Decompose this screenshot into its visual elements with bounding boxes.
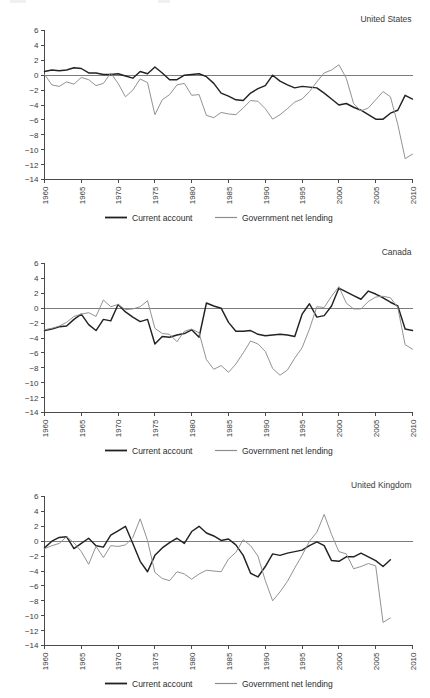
x-tick-label: 1995 [298, 652, 307, 670]
x-tick-label: 1990 [262, 652, 271, 670]
x-tick-label: 1965 [78, 652, 87, 670]
x-tick-label: 1980 [188, 652, 197, 670]
y-tick-label: −4 [29, 567, 39, 576]
x-tick-label: 1970 [114, 652, 123, 670]
x-tick-label: 1975 [151, 186, 160, 204]
x-tick-label: 1985 [225, 186, 234, 204]
x-tick-label: 2010 [409, 419, 418, 437]
series-line-government-net-lending [45, 514, 391, 622]
y-tick-label: 0 [34, 537, 39, 546]
panel-united-kingdom: United Kingdom6420−2−4−6−8−10−12−1419601… [0, 466, 430, 698]
y-tick-label: −6 [29, 349, 39, 358]
chart-united-states: United States6420−2−4−6−8−10−12−14196019… [0, 0, 430, 233]
panel-title: United States [360, 14, 411, 24]
y-tick-label: −8 [29, 131, 39, 140]
chart-united-kingdom: United Kingdom6420−2−4−6−8−10−12−1419601… [0, 466, 430, 698]
x-tick-label: 1980 [188, 419, 197, 437]
y-tick-label: 2 [34, 56, 39, 65]
y-tick-label: 0 [34, 71, 39, 80]
x-tick-label: 2000 [335, 419, 344, 437]
panel-title: Canada [382, 247, 412, 257]
x-tick-label: 1965 [78, 419, 87, 437]
y-tick-label: 4 [34, 41, 39, 50]
panel-united-states: United States6420−2−4−6−8−10−12−14196019… [0, 0, 430, 233]
x-tick-label: 2010 [409, 652, 418, 670]
y-tick-label: −12 [25, 627, 39, 636]
y-tick-label: 4 [34, 507, 39, 516]
x-tick-label: 1990 [262, 186, 271, 204]
y-tick-label: 4 [34, 274, 39, 283]
chart-canada: Canada6420−2−4−6−8−10−12−141960196519701… [0, 233, 430, 466]
legend-label-current-account: Current account [132, 213, 193, 223]
legend-label-government-net-lending: Government net lending [242, 446, 333, 456]
x-tick-label: 1985 [225, 419, 234, 437]
x-tick-label: 1970 [114, 186, 123, 204]
y-tick-label: −4 [29, 101, 39, 110]
x-tick-label: 1980 [188, 186, 197, 204]
y-tick-label: 6 [34, 259, 39, 268]
y-tick-label: −12 [25, 394, 39, 403]
figure-page: United States6420−2−4−6−8−10−12−14196019… [0, 0, 430, 698]
x-tick-label: 1960 [41, 419, 50, 437]
y-tick-label: −10 [25, 612, 39, 621]
y-tick-label: −4 [29, 334, 39, 343]
y-tick-label: −2 [29, 319, 39, 328]
x-tick-label: 2005 [372, 652, 381, 670]
y-tick-label: 6 [34, 492, 39, 501]
panel-canada: Canada6420−2−4−6−8−10−12−141960196519701… [0, 233, 430, 466]
y-tick-label: −6 [29, 116, 39, 125]
y-tick-label: −10 [25, 146, 39, 155]
legend-label-current-account: Current account [132, 679, 193, 689]
y-tick-label: 2 [34, 522, 39, 531]
panel-title: United Kingdom [351, 480, 411, 490]
y-tick-label: −2 [29, 86, 39, 95]
series-line-government-net-lending [45, 287, 413, 376]
y-tick-label: −14 [25, 408, 39, 417]
x-tick-label: 1960 [41, 186, 50, 204]
x-tick-label: 1960 [41, 652, 50, 670]
x-tick-label: 2010 [409, 186, 418, 204]
x-tick-label: 1990 [262, 419, 271, 437]
legend-label-current-account: Current account [132, 446, 193, 456]
x-tick-label: 1975 [151, 652, 160, 670]
x-tick-label: 2000 [335, 652, 344, 670]
legend-label-government-net-lending: Government net lending [242, 679, 333, 689]
y-tick-label: 6 [34, 26, 39, 35]
y-tick-label: −14 [25, 175, 39, 184]
x-tick-label: 1995 [298, 186, 307, 204]
series-line-government-net-lending [45, 65, 413, 159]
y-tick-label: 2 [34, 289, 39, 298]
x-tick-label: 2000 [335, 186, 344, 204]
legend-label-government-net-lending: Government net lending [242, 213, 333, 223]
x-tick-label: 1970 [114, 419, 123, 437]
y-tick-label: −12 [25, 161, 39, 170]
x-tick-label: 1985 [225, 652, 234, 670]
y-tick-label: 0 [34, 304, 39, 313]
x-tick-label: 1975 [151, 419, 160, 437]
y-tick-label: −14 [25, 641, 39, 650]
y-tick-label: −6 [29, 582, 39, 591]
x-tick-label: 1965 [78, 186, 87, 204]
y-tick-label: −8 [29, 364, 39, 373]
x-tick-label: 2005 [372, 419, 381, 437]
y-tick-label: −8 [29, 597, 39, 606]
y-tick-label: −2 [29, 552, 39, 561]
x-tick-label: 1995 [298, 419, 307, 437]
y-tick-label: −10 [25, 379, 39, 388]
series-line-current-account [45, 288, 413, 344]
x-tick-label: 2005 [372, 186, 381, 204]
